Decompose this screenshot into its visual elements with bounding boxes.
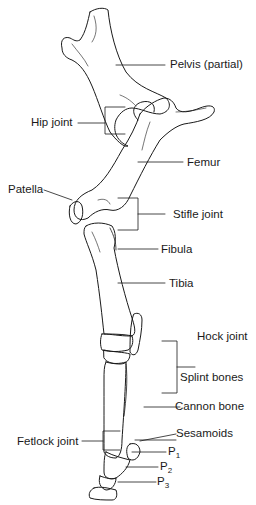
p3-text: P xyxy=(157,475,165,487)
pelvis-bone xyxy=(61,8,169,146)
label-fibula: Fibula xyxy=(161,244,192,256)
label-patella: Patella xyxy=(8,184,43,196)
label-hock-joint: Hock joint xyxy=(197,331,248,343)
label-p3: P3 xyxy=(157,476,169,490)
cannon-bone xyxy=(104,362,126,458)
label-hip-joint: Hip joint xyxy=(31,117,73,129)
tibia-bone xyxy=(84,223,135,336)
label-pelvis: Pelvis (partial) xyxy=(170,59,243,71)
p1-text: P xyxy=(168,445,176,457)
p2-text: P xyxy=(160,460,168,472)
p3-bone xyxy=(89,487,117,500)
label-fetlock-joint: Fetlock joint xyxy=(17,436,78,448)
label-cannon-bone: Cannon bone xyxy=(175,401,244,413)
label-stifle-joint: Stifle joint xyxy=(173,209,223,221)
label-splint-bones: Splint bones xyxy=(180,372,243,384)
label-p2: P2 xyxy=(160,461,172,475)
label-femur: Femur xyxy=(187,157,220,169)
hock-bones xyxy=(101,313,143,364)
p2-subscript: 2 xyxy=(168,466,172,475)
p3-subscript: 3 xyxy=(165,481,169,490)
label-sesamoids: Sesamoids xyxy=(176,428,233,440)
patella-bone xyxy=(69,202,83,225)
p1-subscript: 1 xyxy=(176,451,180,460)
label-p1: P1 xyxy=(168,446,180,460)
label-tibia: Tibia xyxy=(169,278,194,290)
